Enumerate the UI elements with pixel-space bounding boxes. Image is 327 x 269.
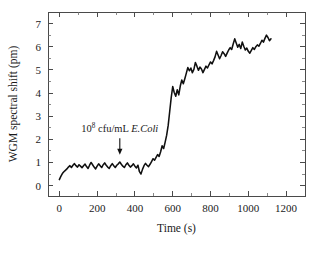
x-axis-tick-labels: 020040060080010001200 <box>57 202 298 214</box>
data-series-line <box>59 35 271 179</box>
y-axis-title: WGM spectral shift (pm) <box>7 46 20 163</box>
y-tick-label: 3 <box>36 110 42 122</box>
y-tick-label: 0 <box>36 180 42 192</box>
x-tick-label: 200 <box>89 202 106 214</box>
y-axis-tick-labels: 01234567 <box>36 18 42 192</box>
x-tick-label: 1200 <box>275 202 298 214</box>
y-tick-label: 4 <box>36 87 42 99</box>
x-tick-label: 400 <box>127 202 144 214</box>
x-tick-label: 600 <box>164 202 181 214</box>
x-axis-title: Time (s) <box>157 222 196 235</box>
y-tick-label: 7 <box>36 18 42 30</box>
y-tick-label: 5 <box>36 64 42 76</box>
x-tick-label: 0 <box>57 202 63 214</box>
x-axis-ticks <box>59 12 286 196</box>
x-tick-label: 1000 <box>237 202 260 214</box>
wgm-spectral-shift-line-chart: 020040060080010001200 01234567 108 cfu/m… <box>0 0 327 269</box>
x-tick-label: 800 <box>202 202 219 214</box>
y-tick-label: 6 <box>36 41 42 53</box>
y-tick-label: 2 <box>36 133 42 145</box>
injection-annotation-label: 108 cfu/mL E.Coli <box>81 122 158 134</box>
figure-container: 020040060080010001200 01234567 108 cfu/m… <box>0 0 327 269</box>
injection-arrow-head <box>117 149 122 155</box>
y-tick-label: 1 <box>36 156 42 168</box>
ecoli-injection-annotation: 108 cfu/mL E.Coli <box>81 122 158 154</box>
axis-frame <box>48 12 305 196</box>
y-axis-ticks <box>48 24 305 186</box>
